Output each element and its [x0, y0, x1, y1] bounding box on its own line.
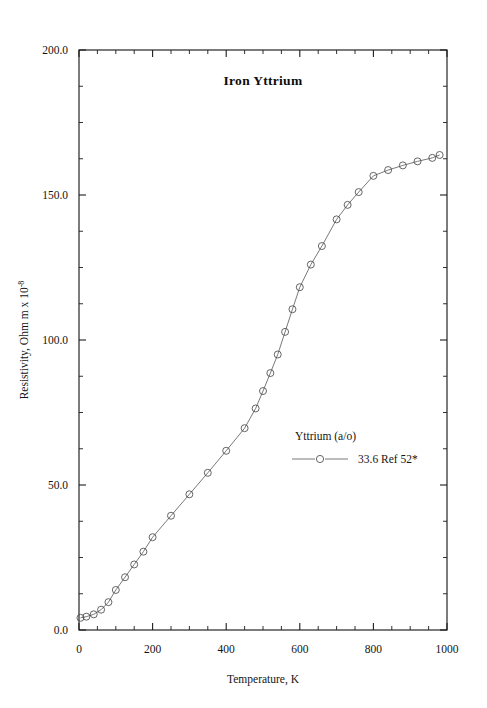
y-tick-label: 150.0	[42, 189, 68, 201]
y-tick-label: 200.0	[42, 44, 68, 56]
figure-container: 02004006008001000 0.050.0100.0150.0200.0…	[0, 0, 487, 708]
legend-entry-label: 33.6 Ref 52*	[358, 453, 418, 465]
y-tick-label: 0.0	[54, 624, 69, 636]
x-tick-label: 800	[365, 643, 383, 655]
x-axis-title: Temperature, K	[227, 673, 300, 686]
x-tick-label: 200	[144, 643, 162, 655]
x-tick-label: 600	[291, 643, 309, 655]
chart-background	[0, 0, 487, 708]
y-axis-title-exponent: -8	[17, 281, 26, 288]
legend-header: Yttrium (a/o)	[295, 430, 356, 443]
resistivity-chart: 02004006008001000 0.050.0100.0150.0200.0…	[0, 0, 487, 708]
y-axis-title-text: Resistivity, Ohm m x 10	[18, 287, 31, 399]
x-tick-label: 0	[76, 643, 82, 655]
x-tick-label: 1000	[436, 643, 459, 655]
y-axis-title: Resistivity, Ohm m x 10-8	[17, 281, 31, 400]
chart-title: Iron Yttrium	[224, 73, 303, 88]
svg-text:Resistivity, Ohm m x 10-8: Resistivity, Ohm m x 10-8	[17, 281, 31, 400]
y-tick-label: 100.0	[42, 334, 68, 346]
y-tick-label: 50.0	[48, 479, 68, 491]
x-tick-label: 400	[218, 643, 236, 655]
